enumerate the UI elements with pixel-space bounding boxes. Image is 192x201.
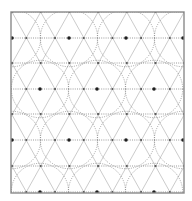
lattice-node <box>40 62 42 64</box>
lattice-node <box>68 113 70 115</box>
diagonal-lines <box>0 12 191 201</box>
diagonal-line <box>41 12 153 201</box>
lattice-node <box>68 165 70 167</box>
lattice-node <box>154 62 156 64</box>
lattice-node <box>126 62 128 64</box>
lattice-node <box>140 37 142 39</box>
lattice-node <box>54 37 56 39</box>
diagonal-line <box>73 12 185 201</box>
diagonal-line <box>0 12 95 201</box>
lattice-node <box>40 113 42 115</box>
major-node <box>124 138 128 142</box>
lattice-node <box>140 88 142 90</box>
lattice-node <box>25 37 27 39</box>
diagonal-line <box>184 12 191 201</box>
major-node <box>67 36 71 40</box>
major-node <box>67 138 71 142</box>
diagonal-line <box>0 12 41 201</box>
lattice-node <box>54 88 56 90</box>
lattice-node <box>83 88 85 90</box>
lattice-node <box>111 37 113 39</box>
circle-arc <box>154 111 191 168</box>
lattice-node <box>68 62 70 64</box>
major-node <box>152 87 156 91</box>
lattice-node <box>40 165 42 167</box>
lattice-node <box>97 165 99 167</box>
lattice-node <box>25 139 27 141</box>
lattice-node <box>54 139 56 141</box>
diagonal-line <box>187 12 191 201</box>
lattice-node <box>83 37 85 39</box>
lattice-node <box>97 62 99 64</box>
lattice-node <box>154 165 156 167</box>
lattice-diagram <box>0 0 191 201</box>
diagonal-line <box>156 12 192 201</box>
lattice-node <box>126 113 128 115</box>
lattice-node <box>83 139 85 141</box>
lattice-node <box>25 88 27 90</box>
lattice-node <box>111 139 113 141</box>
lattice-node <box>140 139 142 141</box>
lattice-node <box>111 88 113 90</box>
circle-arc <box>154 9 191 66</box>
diagonal-line <box>69 12 181 201</box>
diagonal-line <box>159 12 191 201</box>
lattice-node <box>169 88 171 90</box>
diagonal-line <box>12 12 124 201</box>
diagonal-line <box>15 12 127 201</box>
diagonal-line <box>0 12 12 201</box>
diagonal-line <box>101 12 191 201</box>
lattice-node <box>97 113 99 115</box>
diagonal-line <box>44 12 156 201</box>
major-node <box>95 87 99 91</box>
lattice-node <box>154 113 156 115</box>
diagonal-line <box>0 12 9 201</box>
lattice-node <box>169 139 171 141</box>
major-node <box>38 87 42 91</box>
diagonal-line <box>0 12 98 201</box>
major-node <box>124 36 128 40</box>
circle-arc <box>68 163 125 201</box>
circle-arc <box>11 163 68 201</box>
lattice-node <box>169 37 171 39</box>
lattice-node <box>126 165 128 167</box>
